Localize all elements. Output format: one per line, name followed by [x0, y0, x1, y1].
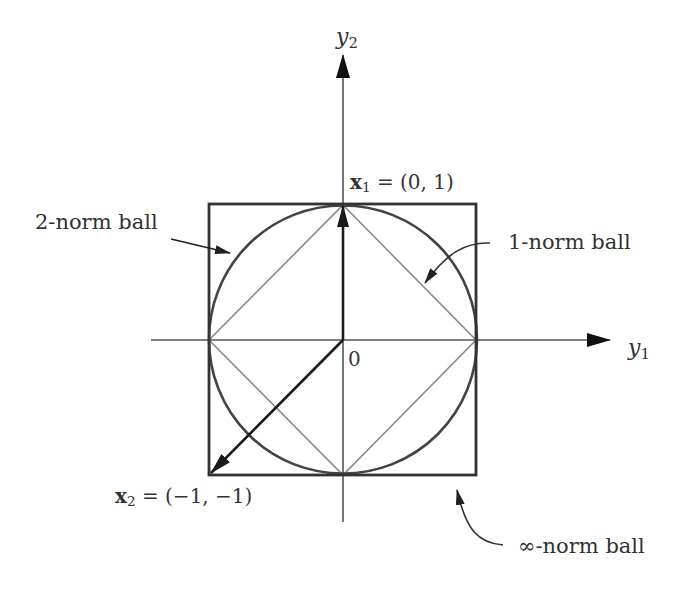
- diagram-graphic: [0, 0, 699, 589]
- y2-sub: 2: [348, 34, 358, 52]
- one-norm-label: 1-norm ball: [508, 232, 631, 253]
- x1-var: x: [350, 170, 362, 194]
- y1-axis-label: y1: [628, 337, 650, 362]
- inf-norm-label: ∞-norm ball: [518, 536, 645, 557]
- one-norm-pointer: [425, 243, 490, 283]
- y2-axis-label: y2: [336, 26, 358, 51]
- vector-x2: [211, 340, 343, 473]
- y1-var: y: [628, 335, 640, 360]
- y1-sub: 1: [640, 345, 650, 363]
- norm-balls-diagram: y2 y1 0 x1 = (0, 1) x2 = (−1, −1) 2-norm…: [0, 0, 699, 589]
- x1-label: x1 = (0, 1): [350, 172, 454, 195]
- inf-norm-pointer: [457, 490, 503, 545]
- two-norm-label: 2-norm ball: [35, 212, 158, 233]
- y2-var: y: [336, 24, 348, 49]
- x2-eq: = (−1, −1): [142, 484, 252, 508]
- x2-sub: 2: [127, 493, 136, 509]
- x1-eq: = (0, 1): [377, 170, 454, 194]
- origin-label: 0: [348, 349, 361, 369]
- two-norm-pointer: [171, 239, 230, 253]
- x2-label: x2 = (−1, −1): [115, 486, 252, 509]
- x1-sub: 1: [362, 179, 371, 195]
- x2-var: x: [115, 484, 127, 508]
